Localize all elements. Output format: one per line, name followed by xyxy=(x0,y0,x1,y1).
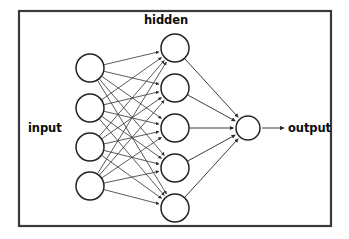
input-node-4 xyxy=(76,172,104,200)
hidden-layer-label: hidden xyxy=(144,13,188,27)
output-layer-label: output xyxy=(288,121,332,135)
hidden-node-3 xyxy=(161,114,189,142)
input-node-1 xyxy=(76,54,104,82)
hidden-node-2 xyxy=(161,74,189,102)
hidden-node-5 xyxy=(161,194,189,222)
network-canvas: input hidden output xyxy=(0,0,349,239)
neural-network-diagram: input hidden output xyxy=(0,0,349,239)
hidden-node-4 xyxy=(161,154,189,182)
input-node-3 xyxy=(76,133,104,161)
hidden-node-1 xyxy=(161,34,189,62)
node-group-output xyxy=(236,116,260,140)
output-node-1 xyxy=(236,116,260,140)
input-layer-label: input xyxy=(28,121,62,135)
input-node-2 xyxy=(76,94,104,122)
